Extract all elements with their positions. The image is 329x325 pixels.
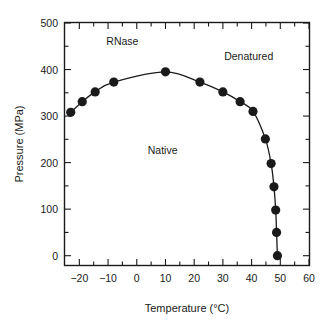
x-tick-label: 20 — [188, 272, 200, 284]
phase-boundary-line — [71, 72, 278, 256]
data-point-marker — [267, 159, 276, 168]
tick-labels-group: −20−1001020304050600100200300400500 — [40, 17, 315, 284]
data-point-marker — [78, 97, 87, 106]
x-tick-label: 10 — [160, 272, 172, 284]
region-label-rnase: RNase — [106, 35, 138, 47]
data-point-marker — [236, 97, 245, 106]
y-axis-title: Pressure (MPa) — [13, 105, 25, 182]
y-tick-label: 300 — [40, 110, 58, 122]
data-point-marker — [261, 134, 270, 143]
data-point-marker — [161, 67, 170, 76]
x-tick-label: 0 — [134, 272, 140, 284]
x-tick-label: 40 — [246, 272, 258, 284]
y-tick-label: 100 — [40, 203, 58, 215]
x-axis-title: Temperature (°C) — [145, 302, 229, 314]
data-point-marker — [273, 251, 282, 260]
phase-boundary-curve — [71, 72, 278, 256]
data-point-marker — [91, 87, 100, 96]
y-tick-label: 500 — [40, 17, 58, 29]
data-point-marker — [66, 108, 75, 117]
phase-diagram-figure: −20−1001020304050600100200300400500 RNas… — [0, 0, 329, 325]
region-label-native: Native — [148, 144, 178, 156]
data-points-group — [66, 67, 282, 260]
x-tick-label: 60 — [303, 272, 315, 284]
data-point-marker — [271, 205, 280, 214]
data-point-marker — [218, 87, 227, 96]
chart-canvas: −20−1001020304050600100200300400500 RNas… — [0, 0, 329, 325]
data-point-marker — [272, 228, 281, 237]
data-point-marker — [269, 182, 278, 191]
x-tick-label: 30 — [217, 272, 229, 284]
y-tick-label: 0 — [52, 250, 58, 262]
region-label-denatured: Denatured — [224, 50, 273, 62]
data-point-marker — [248, 107, 257, 116]
x-tick-label: 50 — [274, 272, 286, 284]
x-tick-label: −10 — [99, 272, 117, 284]
y-tick-label: 200 — [40, 157, 58, 169]
x-tick-label: −20 — [70, 272, 88, 284]
y-tick-label: 400 — [40, 64, 58, 76]
data-point-marker — [195, 78, 204, 87]
data-point-marker — [109, 78, 118, 87]
region-labels-group: RNaseDenaturedNative — [106, 35, 273, 156]
